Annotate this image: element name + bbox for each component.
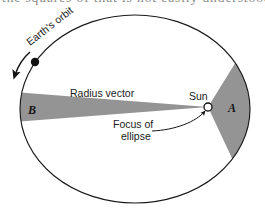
focus-of-ellipse-label-line1: Focus of xyxy=(113,118,153,130)
sector-b-label: B xyxy=(27,103,36,117)
earth-dot-icon xyxy=(31,58,39,66)
sector-a-label: A xyxy=(227,101,236,115)
sun-label: Sun xyxy=(189,90,208,102)
radius-vector-label: Radius vector xyxy=(70,87,135,99)
orbit-diagram-figure: the squares of that is not easily unders… xyxy=(0,0,265,209)
focus-of-ellipse-label-line2: ellipse xyxy=(121,130,151,142)
sun-circle-icon xyxy=(204,103,212,111)
orbit-diagram-canvas: Earth's orbit Radius vector Sun Focus of… xyxy=(0,0,265,209)
